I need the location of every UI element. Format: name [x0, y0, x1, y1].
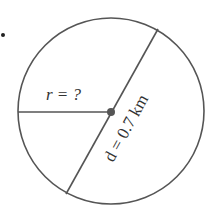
circle-diagram: r = ? d = 0.7 km: [0, 0, 218, 220]
radius-label: r = ?: [46, 85, 82, 104]
center-point: [107, 108, 115, 116]
bullet-dot: [1, 33, 5, 37]
diameter-label: d = 0.7 km: [100, 91, 152, 165]
